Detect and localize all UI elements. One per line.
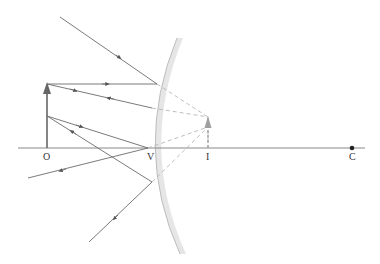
object-arrow: [43, 82, 51, 148]
convex-mirror: [155, 38, 186, 254]
center-of-curvature-dot: [350, 146, 355, 151]
image-label: I: [206, 151, 209, 162]
image-arrow: [205, 116, 212, 148]
ray-diagram: O V I C: [0, 0, 380, 264]
vertex-label: V: [147, 151, 155, 162]
object-label: O: [43, 151, 50, 162]
center-label: C: [349, 151, 356, 162]
